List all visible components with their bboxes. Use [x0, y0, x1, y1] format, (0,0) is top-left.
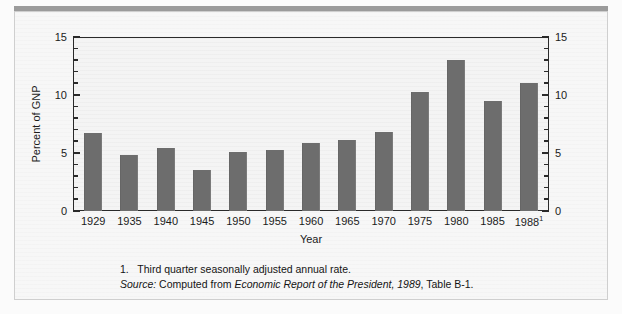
y-tick-left-5 — [73, 152, 80, 154]
x-tick-label-1970: 1970 — [366, 215, 402, 228]
footnote-line: 1. Third quarter seasonally adjusted ann… — [120, 262, 474, 277]
source-suffix: , Table B-1. — [421, 278, 474, 290]
bar-1929[interactable] — [84, 133, 102, 211]
bar-slot — [257, 37, 293, 211]
y-tick-left-2 — [73, 187, 78, 188]
bar-1965[interactable] — [338, 140, 356, 211]
y-tick-right-15 — [542, 36, 549, 38]
y-tick-label-left-0: 0 — [61, 206, 67, 217]
y-tick-label-right-0: 0 — [555, 206, 561, 217]
bar-slot — [220, 37, 256, 211]
figure-notes: 1. Third quarter seasonally adjusted ann… — [120, 262, 474, 292]
y-tick-label-right-10: 10 — [555, 90, 567, 101]
x-tick-label-1988: 19881 — [511, 215, 547, 228]
y-tick-left-10 — [73, 94, 80, 96]
x-tick-label-1929: 1929 — [75, 215, 111, 228]
y-tick-left-15 — [73, 36, 80, 38]
bar-1975[interactable] — [411, 92, 429, 211]
y-tick-right-1 — [544, 198, 549, 199]
y-tick-left-3 — [73, 175, 78, 176]
y-tick-right-5 — [542, 152, 549, 154]
y-axis-title: Percent of GNP — [28, 37, 44, 211]
x-tick-label-1960: 1960 — [293, 215, 329, 228]
y-tick-left-7 — [73, 129, 78, 130]
source-line: Source: Computed from Economic Report of… — [120, 277, 474, 292]
bar-1970[interactable] — [375, 132, 393, 211]
figure-panel: Percent of GNP 005510101515 192919351940… — [0, 0, 622, 314]
bar-1955[interactable] — [266, 150, 284, 211]
x-tick-label-1950: 1950 — [220, 215, 256, 228]
bar-slot — [148, 37, 184, 211]
x-tick-label-1940: 1940 — [148, 215, 184, 228]
x-tick-label-1980: 1980 — [438, 215, 474, 228]
bar-1988[interactable] — [520, 83, 538, 211]
bar-slot — [474, 37, 510, 211]
bar-1960[interactable] — [302, 143, 320, 211]
source-italic-title: Economic Report of the President, 1989 — [234, 278, 420, 290]
bar-slot — [293, 37, 329, 211]
source-prefix: Computed from — [159, 278, 231, 290]
plot-area-wrapper: 005510101515 — [73, 37, 549, 211]
y-tick-label-right-15: 15 — [555, 32, 567, 43]
y-tick-right-10 — [542, 94, 549, 96]
y-tick-left-14 — [73, 48, 78, 49]
footnote-marker: 1. — [120, 263, 129, 275]
y-tick-label-left-15: 15 — [55, 32, 67, 43]
bar-1980[interactable] — [447, 60, 465, 211]
y-tick-right-12 — [544, 71, 549, 72]
x-tick-label-1955: 1955 — [257, 215, 293, 228]
bar-slot — [366, 37, 402, 211]
y-tick-left-0 — [73, 210, 80, 212]
y-tick-left-4 — [73, 164, 78, 165]
y-tick-left-1 — [73, 198, 78, 199]
y-tick-left-6 — [73, 140, 78, 141]
x-tick-label-1965: 1965 — [329, 215, 365, 228]
source-label: Source: — [120, 278, 156, 290]
bar-slot — [329, 37, 365, 211]
bar-series — [73, 37, 549, 211]
x-axis-title: Year — [73, 233, 549, 245]
bar-slot — [75, 37, 111, 211]
y-tick-right-14 — [544, 48, 549, 49]
footnote-text: Third quarter seasonally adjusted annual… — [137, 263, 351, 275]
y-tick-right-2 — [544, 187, 549, 188]
bar-1950[interactable] — [229, 152, 247, 211]
x-tick-label-1985: 1985 — [474, 215, 510, 228]
bar-1945[interactable] — [193, 170, 211, 211]
bar-1940[interactable] — [157, 148, 175, 211]
y-tick-left-11 — [73, 82, 78, 83]
bar-1935[interactable] — [120, 155, 138, 211]
bar-slot — [184, 37, 220, 211]
y-tick-right-4 — [544, 164, 549, 165]
bar-1985[interactable] — [484, 101, 502, 211]
y-tick-right-6 — [544, 140, 549, 141]
bar-slot — [511, 37, 547, 211]
x-tick-label-1975: 1975 — [402, 215, 438, 228]
y-tick-right-7 — [544, 129, 549, 130]
bar-slot — [402, 37, 438, 211]
y-tick-right-11 — [544, 82, 549, 83]
bar-slot — [111, 37, 147, 211]
y-tick-right-8 — [544, 117, 549, 118]
y-tick-right-3 — [544, 175, 549, 176]
y-tick-label-left-10: 10 — [55, 90, 67, 101]
bar-slot — [438, 37, 474, 211]
y-tick-right-9 — [544, 106, 549, 107]
y-tick-right-13 — [544, 59, 549, 60]
y-tick-left-13 — [73, 59, 78, 60]
y-tick-label-right-5: 5 — [555, 148, 561, 159]
x-tick-label-1945: 1945 — [184, 215, 220, 228]
y-tick-label-left-5: 5 — [61, 148, 67, 159]
x-tick-label-1935: 1935 — [111, 215, 147, 228]
y-tick-left-8 — [73, 117, 78, 118]
y-tick-right-0 — [542, 210, 549, 212]
x-axis-tick-labels: 1929193519401945195019551960196519701975… — [73, 215, 549, 228]
y-tick-left-12 — [73, 71, 78, 72]
y-tick-left-9 — [73, 106, 78, 107]
x-tick-footnote-marker: 1 — [539, 215, 543, 222]
